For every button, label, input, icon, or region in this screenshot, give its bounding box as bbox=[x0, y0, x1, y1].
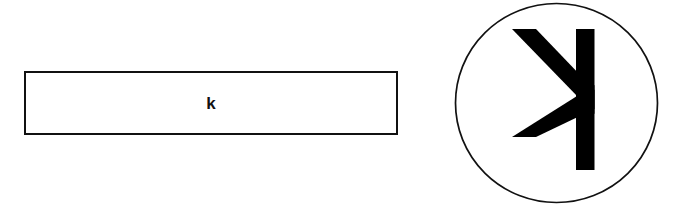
bar-label: k bbox=[26, 73, 396, 133]
figure-canvas: k bbox=[0, 0, 676, 224]
bar-rectangle: k bbox=[24, 71, 398, 135]
circle-glyph-group bbox=[454, 2, 659, 204]
mirrored-k-glyph-icon bbox=[454, 2, 659, 204]
